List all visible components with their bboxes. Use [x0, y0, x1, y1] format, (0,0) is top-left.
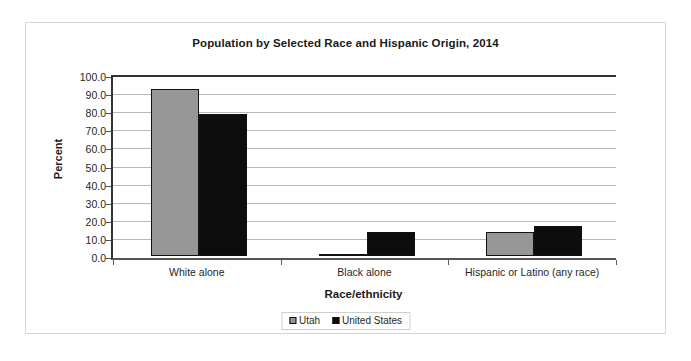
legend-label: United States [342, 315, 402, 326]
plot-area [111, 75, 616, 260]
bar-utah [319, 254, 367, 256]
y-tick-label: 30.0 [62, 198, 106, 210]
legend-swatch-icon [332, 317, 339, 324]
legend-label: Utah [299, 315, 320, 326]
y-tick-label: 90.0 [62, 89, 106, 101]
chart-title: Population by Selected Race and Hispanic… [26, 37, 665, 49]
x-axis-category-labels: White aloneBlack aloneHispanic or Latino… [111, 266, 616, 284]
legend-item[interactable]: Utah [289, 315, 320, 326]
y-tick-label: 0.0 [62, 252, 106, 264]
x-category-label: White alone [169, 266, 224, 278]
x-tick-mark [448, 260, 449, 265]
x-tick-mark [281, 260, 282, 265]
bar-united-states [199, 114, 247, 256]
y-tick-label: 60.0 [62, 143, 106, 155]
bar-utah [486, 232, 534, 256]
x-tick-mark [113, 260, 114, 265]
bars-layer [115, 79, 616, 256]
x-category-label: Black alone [337, 266, 391, 278]
y-tick-label: 50.0 [62, 162, 106, 174]
bar-united-states [367, 232, 415, 256]
chart-figure-frame: Population by Selected Race and Hispanic… [25, 22, 666, 334]
x-axis-title: Race/ethnicity [111, 288, 616, 300]
x-tick-mark [616, 260, 617, 265]
y-tick-label: 10.0 [62, 234, 106, 246]
legend-swatch-icon [289, 317, 296, 324]
y-tick-label: 20.0 [62, 216, 106, 228]
bar-united-states [534, 226, 582, 256]
bar-utah [151, 89, 199, 256]
y-tick-label: 70.0 [62, 125, 106, 137]
chart-legend: UtahUnited States [281, 312, 410, 330]
plot-area-wrapper [111, 75, 616, 260]
x-category-label: Hispanic or Latino (any race) [465, 266, 599, 278]
legend-item[interactable]: United States [332, 315, 402, 326]
y-tick-label: 40.0 [62, 180, 106, 192]
y-axis-tick-labels: 100.090.080.070.060.050.040.030.020.010.… [56, 75, 106, 260]
y-tick-label: 100.0 [62, 71, 106, 83]
y-tick-label: 80.0 [62, 107, 106, 119]
